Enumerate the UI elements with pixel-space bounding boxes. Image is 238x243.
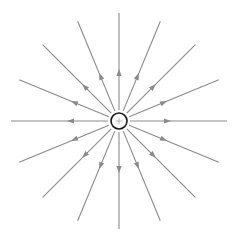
- field-line: [78, 131, 115, 221]
- arrow-icon: [99, 73, 104, 80]
- arrow-icon: [116, 69, 121, 76]
- arrow-icon: [160, 136, 167, 141]
- field-line: [123, 21, 160, 111]
- point-charge: [111, 113, 127, 129]
- arrow-icon: [134, 73, 139, 80]
- arrow-icon: [116, 166, 121, 173]
- arrow-icon: [164, 118, 171, 123]
- field-line: [78, 21, 115, 111]
- field-line: [129, 80, 219, 117]
- field-diagram: [0, 0, 238, 243]
- arrow-icon: [134, 162, 139, 169]
- arrow-icon: [67, 118, 74, 123]
- field-line: [19, 80, 109, 117]
- arrow-icon: [71, 136, 78, 141]
- field-line: [19, 125, 109, 162]
- arrow-icon: [160, 101, 167, 106]
- field-line: [129, 125, 219, 162]
- field-line: [123, 131, 160, 221]
- arrow-icon: [71, 101, 78, 106]
- arrow-icon: [99, 162, 104, 169]
